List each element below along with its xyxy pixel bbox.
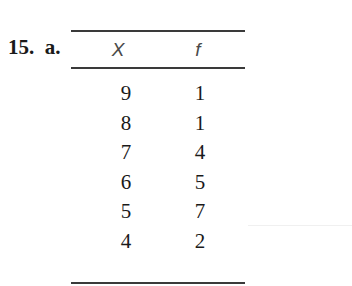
- column-header-x: X: [103, 37, 133, 63]
- problem-label: 15. a.: [8, 33, 61, 61]
- table-header-rule: [71, 67, 245, 69]
- cell-f: 5: [185, 169, 215, 195]
- table-row: 7 4: [0, 139, 352, 169]
- table-row: 8 1: [0, 110, 352, 140]
- cell-x: 8: [111, 110, 141, 136]
- table-row: 5 7: [0, 198, 352, 228]
- table-bottom-rule: [71, 282, 245, 284]
- column-header-f: f: [183, 37, 213, 63]
- frequency-table-body: 9 1 8 1 7 4 6 5 5 7 4 2: [0, 80, 352, 258]
- cell-f: 2: [185, 228, 215, 254]
- cell-f: 4: [185, 139, 215, 165]
- cell-f: 1: [185, 80, 215, 106]
- cell-f: 1: [185, 110, 215, 136]
- cell-x: 4: [111, 228, 141, 254]
- scan-artifact-line: [248, 225, 352, 226]
- table-row: 9 1: [0, 80, 352, 110]
- cell-f: 7: [185, 198, 215, 224]
- cell-x: 5: [111, 198, 141, 224]
- table-top-rule: [71, 30, 245, 32]
- cell-x: 7: [111, 139, 141, 165]
- table-row: 4 2: [0, 228, 352, 258]
- cell-x: 9: [111, 80, 141, 106]
- table-row: 6 5: [0, 169, 352, 199]
- cell-x: 6: [111, 169, 141, 195]
